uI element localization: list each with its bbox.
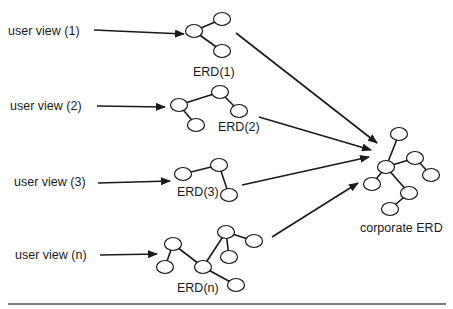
entity-node	[195, 261, 212, 274]
erd-erd3: ERD(3)	[175, 159, 238, 202]
entity-node	[231, 105, 248, 118]
entity-node	[401, 187, 418, 200]
entity-node	[407, 152, 424, 165]
erd-erdn-label: ERD(n)	[177, 281, 219, 295]
user-view-label-uv2: user view (2)	[10, 99, 82, 113]
entity-node	[228, 279, 245, 292]
erd-to-corporate-arrow	[242, 157, 369, 185]
erd-erd1: ERD(1)	[186, 13, 235, 80]
entity-node	[214, 13, 231, 26]
erd-erd1-label: ERD(1)	[193, 65, 235, 79]
entity-node	[175, 168, 192, 181]
entity-node	[221, 251, 238, 264]
entity-node	[246, 235, 263, 248]
entity-node	[382, 203, 399, 216]
diagram-canvas: user view (1)user view (2)user view (3)u…	[0, 0, 453, 309]
user-view-label-uvn: user view (n)	[15, 248, 87, 262]
erd-erdn: ERD(n)	[157, 226, 263, 296]
erd-integration-diagram: user view (1)user view (2)user view (3)u…	[0, 0, 453, 309]
corporate-erd: corporate ERD	[360, 128, 443, 236]
erd-erd2: ERD(2)	[171, 86, 260, 135]
entity-node	[378, 161, 395, 174]
arrows	[94, 30, 377, 255]
entity-node	[214, 45, 231, 58]
entity-node	[391, 128, 408, 141]
view-to-erd-arrow	[94, 30, 184, 34]
erd-erd3-label: ERD(3)	[177, 185, 219, 199]
corporate-erd-graph: corporate ERD	[360, 128, 443, 236]
entity-node	[212, 86, 229, 99]
entity-node	[364, 178, 381, 191]
entity-node	[211, 159, 228, 172]
user-view-label-uv1: user view (1)	[8, 24, 80, 38]
entity-node	[186, 25, 203, 38]
erd-to-corporate-arrow	[259, 117, 371, 150]
entity-node	[218, 226, 235, 239]
view-to-erd-arrow	[100, 254, 157, 255]
erd-graphs: ERD(1)ERD(2)ERD(3)ERD(n)	[157, 13, 263, 296]
entity-node	[171, 99, 188, 112]
entity-node	[157, 261, 174, 274]
erd-to-corporate-arrow	[272, 183, 358, 237]
entity-node	[423, 169, 440, 182]
user-view-labels: user view (1)user view (2)user view (3)u…	[8, 24, 87, 262]
entity-node	[221, 189, 238, 202]
corporate-erd-graph-label: corporate ERD	[360, 221, 443, 235]
entity-node	[188, 119, 205, 132]
view-to-erd-arrow	[98, 181, 170, 183]
user-view-label-uv3: user view (3)	[14, 175, 86, 189]
entity-node	[165, 238, 182, 251]
view-to-erd-arrow	[97, 106, 165, 107]
erd-erd2-label: ERD(2)	[218, 120, 260, 134]
